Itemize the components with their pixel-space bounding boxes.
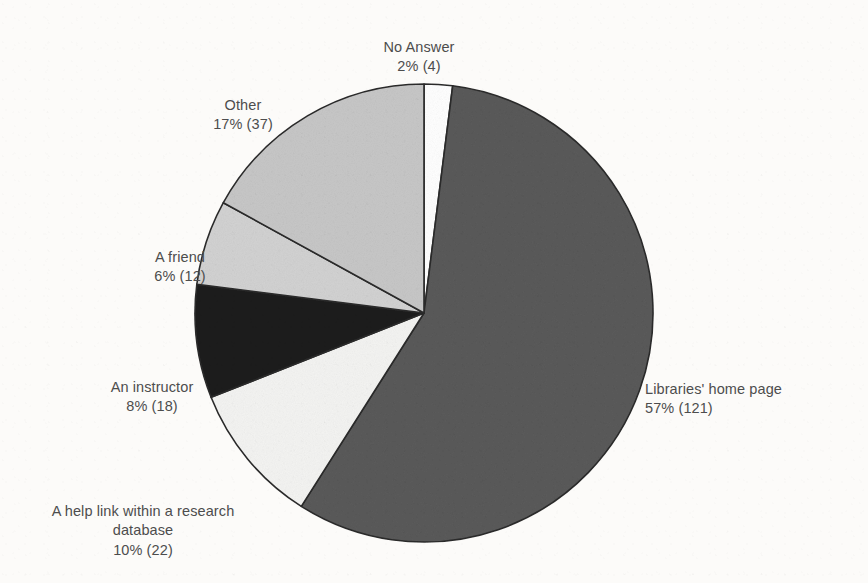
pie-label-a-friend-name: A friend bbox=[155, 249, 205, 265]
pie-label-no-answer: No Answer 2% (4) bbox=[334, 18, 504, 96]
pie-label-libraries-home-page: Libraries' home page 57% (121) bbox=[645, 360, 855, 438]
pie-label-libraries-home-page-value: 57% (121) bbox=[645, 399, 855, 419]
pie-chart-figure: No Answer 2% (4) Other 17% (37) A friend… bbox=[0, 0, 868, 583]
pie-label-no-answer-name: No Answer bbox=[383, 39, 454, 55]
pie-label-help-link-name: A help link within a research database bbox=[52, 503, 235, 539]
pie-label-a-friend-value: 6% (12) bbox=[100, 267, 260, 287]
pie-label-an-instructor-name: An instructor bbox=[111, 379, 194, 395]
pie-label-no-answer-value: 2% (4) bbox=[334, 57, 504, 77]
pie-label-an-instructor-value: 8% (18) bbox=[62, 397, 242, 417]
pie-label-other-value: 17% (37) bbox=[163, 115, 323, 135]
pie-label-help-link-value: 10% (22) bbox=[10, 541, 276, 561]
pie-label-help-link: A help link within a research database 1… bbox=[10, 482, 276, 580]
pie-label-other-name: Other bbox=[225, 97, 262, 113]
pie-label-libraries-home-page-name: Libraries' home page bbox=[645, 381, 782, 397]
pie-label-other: Other 17% (37) bbox=[163, 76, 323, 154]
pie-label-a-friend: A friend 6% (12) bbox=[100, 228, 260, 306]
pie-label-an-instructor: An instructor 8% (18) bbox=[62, 358, 242, 436]
